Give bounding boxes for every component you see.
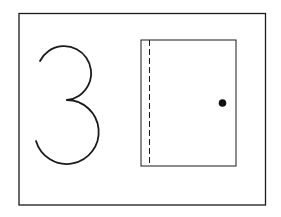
number-card: 3 [0,0,281,217]
door-knob [219,99,227,107]
door-icon [141,40,236,166]
